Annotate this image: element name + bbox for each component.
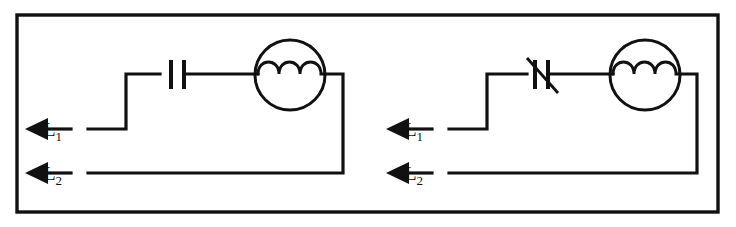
left-motor-coil — [258, 62, 325, 74]
right-circuit: L1 L2 — [386, 40, 697, 188]
right-motor-circle — [610, 40, 680, 110]
right-l2-label-main: L — [405, 163, 417, 184]
right-motor-coil — [613, 62, 680, 74]
left-motor — [255, 40, 325, 110]
right-l1-label-sub: 1 — [417, 129, 424, 144]
left-motor-circle — [255, 40, 325, 110]
left-circuit: L1 L2 — [25, 40, 343, 188]
left-l2-label: L2 — [44, 163, 62, 188]
left-l1-label: L1 — [44, 119, 62, 144]
left-l1-label-sub: 1 — [56, 129, 63, 144]
right-l2-label: L2 — [405, 163, 423, 188]
circuit-diagram-figure: L1 L2 — [0, 0, 736, 227]
left-capacitor — [171, 60, 184, 89]
left-l2-label-main: L — [44, 163, 56, 184]
right-l1-wire — [449, 74, 527, 129]
schematic-canvas: L1 L2 — [0, 0, 736, 227]
left-l2-label-sub: 2 — [56, 173, 63, 188]
left-l1-wire — [88, 74, 160, 129]
right-l1-label-main: L — [405, 119, 417, 140]
right-l1-label: L1 — [405, 119, 423, 144]
left-l1-label-main: L — [44, 119, 56, 140]
right-l2-label-sub: 2 — [417, 173, 424, 188]
right-motor — [610, 40, 680, 110]
diagram-border — [17, 15, 718, 212]
